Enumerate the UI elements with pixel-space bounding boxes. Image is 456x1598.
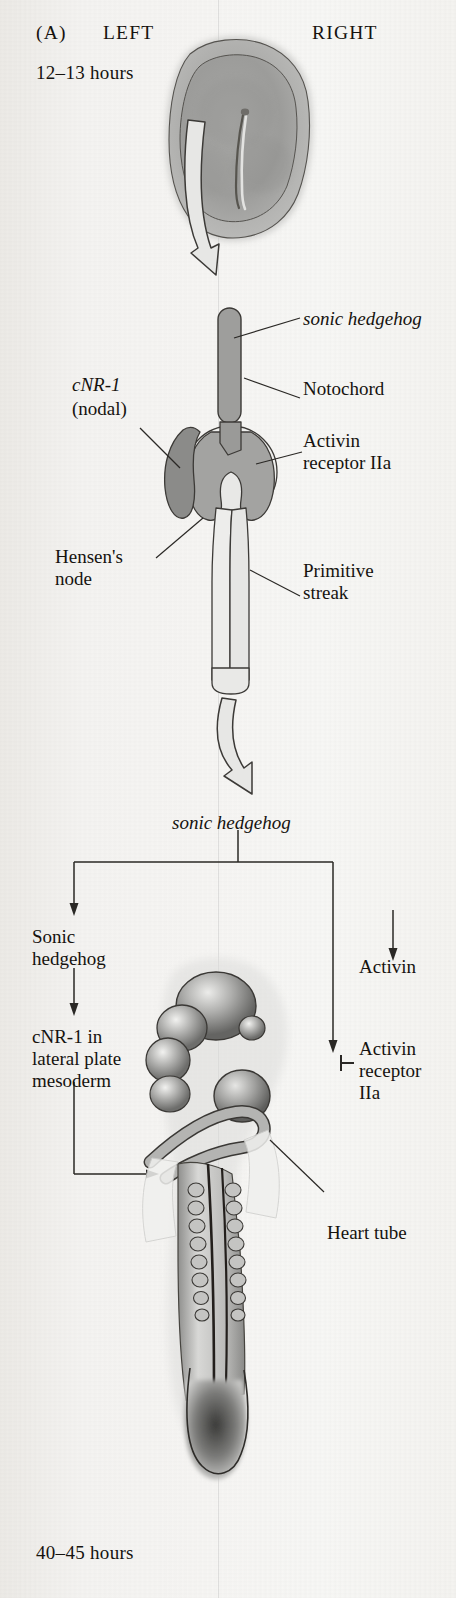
leader-line-hensens-node — [156, 518, 203, 558]
hindbrain-vesicle — [146, 1038, 190, 1082]
curved-arrow-bottom — [0, 690, 456, 820]
lateral-plate-left — [143, 1158, 178, 1242]
label-primitive-streak: Primitive streak — [303, 560, 374, 604]
node-streak-diagram — [0, 300, 456, 720]
otic-vesicle — [150, 1076, 190, 1112]
notochord-shape — [218, 308, 241, 423]
flowchart-left-node-1: Sonic hedgehog — [32, 926, 106, 970]
label-cnr1: cNR-1 — [72, 374, 121, 396]
flowchart-left-node-2: cNR-1 in lateral plate mesoderm — [32, 1026, 121, 1092]
orientation-right-label: RIGHT — [312, 22, 378, 45]
flowchart-source-label: sonic hedgehog — [172, 812, 291, 834]
panel-label: (A) — [36, 22, 67, 45]
primitive-streak-left-edge — [212, 508, 232, 680]
flowchart-right-node-1: Activin — [359, 956, 416, 978]
arrow-body — [185, 120, 219, 275]
label-heart-tube: Heart tube — [327, 1222, 407, 1244]
label-sonic-hedgehog: sonic hedgehog — [303, 308, 422, 330]
label-cnr1-sub: (nodal) — [72, 398, 127, 420]
label-notochord: Notochord — [303, 378, 384, 400]
figure-panel-a: (A) LEFT RIGHT 12–13 hours sonic hedgeho… — [0, 0, 456, 1598]
arrowhead-left-branch — [70, 903, 79, 916]
tail-bud — [184, 1380, 247, 1480]
label-activin-receptor: Activin receptor IIa — [303, 430, 391, 474]
label-hensens-node: Hensen's node — [55, 546, 123, 590]
leader-line-sonic-hedgehog — [234, 318, 300, 338]
orientation-left-label: LEFT — [103, 22, 154, 45]
arrow-body — [217, 698, 252, 794]
leader-line-notochord — [244, 378, 300, 398]
leader-line-primitive-streak — [250, 570, 300, 596]
stage-bottom-time: 40–45 hours — [36, 1542, 134, 1564]
flowchart-right-node-2: Activin receptor IIa — [359, 1038, 421, 1104]
primitive-streak-right-edge — [230, 508, 249, 680]
optic-vesicle — [239, 1016, 265, 1040]
stage-top-time: 12–13 hours — [36, 62, 134, 84]
